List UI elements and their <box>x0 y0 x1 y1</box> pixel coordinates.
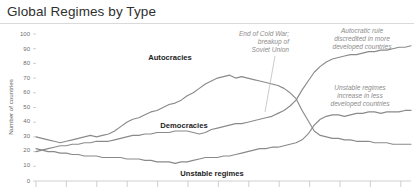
line-chart-svg: 100 90 80 70 60 50 40 30 20 10 0 <box>0 0 414 192</box>
y-tick-label: 0 <box>27 178 31 184</box>
annotation-line: Unstable regimes <box>334 84 386 92</box>
annotation-line: End of Cold War; <box>239 30 289 37</box>
series-label-democracies: Democracies <box>160 121 207 130</box>
annotation-line: developed countries <box>330 100 390 108</box>
y-tick-label: 30 <box>23 133 30 139</box>
y-tick-label: 50 <box>23 104 30 110</box>
annotation-line: Autocratic rule <box>340 27 383 34</box>
annotation-line: Soviet Union <box>252 46 290 53</box>
y-tick-label: 70 <box>23 75 30 81</box>
chart-container: Global Regimes by Type 100 90 80 70 60 5… <box>0 0 414 192</box>
y-tick-label: 60 <box>23 89 30 95</box>
y-tick-label: 10 <box>23 162 30 168</box>
annotation-line: discredited in more <box>334 35 390 42</box>
y-tick-label: 20 <box>23 147 30 153</box>
annotation-line: increase in less <box>337 92 383 99</box>
y-tick-label: 80 <box>23 60 30 66</box>
y-tick-label: 100 <box>20 31 31 37</box>
y-tick-label: 90 <box>23 46 30 52</box>
series-label-unstable-regimes: Unstable regimes <box>180 169 243 178</box>
series-label-autocracies: Autocracies <box>148 53 191 62</box>
cold-war-annotation: End of Cold War; breakup of Soviet Union <box>239 30 290 112</box>
x-axis <box>36 181 411 187</box>
y-tick-marks <box>33 34 36 181</box>
annotation-line: breakup of <box>258 38 290 46</box>
y-axis-title: Number of countries <box>7 79 14 135</box>
series-line-unstable-regimes <box>36 110 411 163</box>
annotation-line: developed countries <box>332 43 392 51</box>
y-axis-ticks: 100 90 80 70 60 50 40 30 20 10 0 <box>20 31 31 184</box>
autocratic-rule-annotation: Autocratic rule discredited in more deve… <box>332 27 392 51</box>
unstable-regimes-annotation: Unstable regimes increase in less develo… <box>330 84 390 108</box>
y-tick-label: 40 <box>23 118 30 124</box>
